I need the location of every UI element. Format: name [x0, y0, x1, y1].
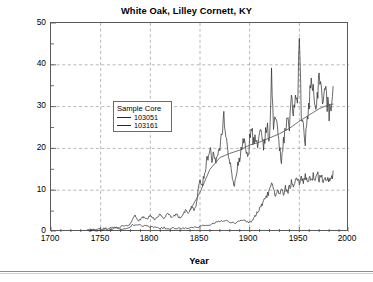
x-tick-1850: 1850 — [179, 234, 219, 243]
x-tick-2000: 2000 — [327, 234, 367, 243]
legend-title: Sample Core — [117, 104, 168, 113]
legend-item-103161[interactable]: 103161 — [117, 122, 168, 130]
x-tick-1800: 1800 — [129, 234, 169, 243]
plot-area — [50, 22, 348, 231]
x-tick-1950: 1950 — [278, 234, 318, 243]
footer-divider-shadow — [0, 273, 373, 274]
data-series-layer — [88, 38, 333, 231]
legend-line-swatch-icon — [117, 117, 131, 118]
legend-line-swatch-icon — [117, 125, 131, 126]
x-tick-1700: 1700 — [30, 234, 70, 243]
legend-label: 103161 — [134, 122, 158, 130]
series-line-103161 — [88, 171, 333, 231]
chart-figure: White Oak, Lilley Cornett, KY Basal Area… — [0, 0, 373, 282]
axis-ticks — [51, 23, 349, 232]
x-axis-label: Year — [50, 256, 348, 266]
x-tick-1750: 1750 — [80, 234, 120, 243]
legend: Sample Core 103051 103161 — [113, 101, 172, 132]
plot-canvas — [51, 23, 349, 232]
x-tick-1900: 1900 — [228, 234, 268, 243]
footer-divider — [0, 271, 373, 272]
series-line-103051 — [88, 38, 333, 231]
gridlines — [51, 23, 349, 232]
